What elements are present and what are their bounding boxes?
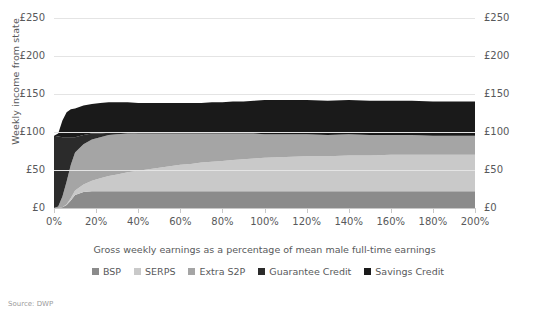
x-axis-tick-label: 120%	[292, 217, 321, 227]
y-axis-tick-label-right: £0	[484, 203, 497, 213]
y-axis-tick-label-left: £250	[20, 13, 45, 23]
x-axis-tick-label: 200%	[461, 217, 490, 227]
y-axis-tick-label-left: £100	[20, 127, 45, 137]
legend-swatch-icon	[364, 268, 371, 275]
gridline	[54, 18, 475, 19]
legend-item[interactable]: SERPS	[134, 266, 175, 277]
legend-item-label: BSP	[103, 266, 121, 277]
gridline	[54, 56, 475, 57]
x-axis-tick-label: 40%	[127, 217, 149, 227]
y-axis-tick-label-left: £200	[20, 51, 45, 61]
legend-swatch-icon	[258, 268, 265, 275]
legend-item-label: Savings Credit	[375, 266, 444, 277]
legend-item[interactable]: Extra S2P	[188, 266, 245, 277]
y-axis-tick-label-left: £50	[26, 165, 45, 175]
chart-legend: BSPSERPSExtra S2PGuarantee CreditSavings…	[0, 266, 536, 277]
plot-area: £0£0£50£50£100£100£150£150£200£200£250£2…	[54, 18, 475, 208]
legend-item-label: Guarantee Credit	[269, 266, 351, 277]
legend-swatch-icon	[188, 268, 195, 275]
y-axis-tick-label-right: £100	[484, 127, 509, 137]
legend-swatch-icon	[134, 268, 141, 275]
legend-item-label: SERPS	[145, 266, 175, 277]
source-note: Source: DWP	[8, 300, 53, 308]
x-axis-tick-label: 140%	[334, 217, 363, 227]
y-axis-tick-label-left: £0	[32, 203, 45, 213]
x-axis-tick-mark	[475, 208, 476, 213]
y-axis-tick-label-right: £250	[484, 13, 509, 23]
x-axis-tick-label: 160%	[377, 217, 406, 227]
x-axis-tick-label: 0%	[46, 217, 62, 227]
x-axis-tick-label: 20%	[85, 217, 107, 227]
y-axis-tick-label-right: £50	[484, 165, 503, 175]
legend-item[interactable]: BSP	[92, 266, 121, 277]
chart-figure: Weekly income from state £0£0£50£50£100£…	[0, 0, 536, 311]
gridline	[54, 132, 475, 133]
x-axis-tick-label: 100%	[250, 217, 279, 227]
y-axis-tick-label-left: £150	[20, 89, 45, 99]
x-axis-line	[54, 208, 475, 209]
gridline	[54, 94, 475, 95]
legend-item-label: Extra S2P	[199, 266, 245, 277]
x-axis-tick-label: 60%	[169, 217, 191, 227]
legend-swatch-icon	[92, 268, 99, 275]
y-axis-tick-label-right: £200	[484, 51, 509, 61]
x-axis-tick-label: 80%	[211, 217, 233, 227]
x-axis-tick-label: 180%	[419, 217, 448, 227]
gridline	[54, 170, 475, 171]
stacked-area-series	[54, 18, 475, 208]
x-axis-title: Gross weekly earnings as a percentage of…	[54, 244, 475, 255]
y-axis-tick-label-right: £150	[484, 89, 509, 99]
legend-item[interactable]: Guarantee Credit	[258, 266, 351, 277]
area-series-bsp	[54, 191, 475, 208]
legend-item[interactable]: Savings Credit	[364, 266, 444, 277]
